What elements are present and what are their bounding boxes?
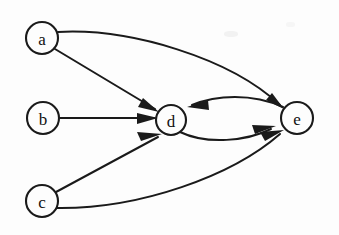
node-a[interactable]: a <box>26 22 58 54</box>
edge-a-to-d <box>55 49 159 112</box>
node-e-label: e <box>293 110 301 129</box>
node-c-label: c <box>38 193 46 212</box>
edge-d-to-e <box>180 125 276 140</box>
edge-c-to-d-path <box>56 137 158 192</box>
edge-e-to-d-arrowhead <box>187 100 209 110</box>
node-a-label: a <box>38 30 46 49</box>
node-layer: a b c d e <box>26 22 313 217</box>
edge-b-to-d-arrowhead <box>137 113 158 124</box>
directed-graph: a b c d e <box>0 0 339 235</box>
edge-c-to-e-path <box>57 134 280 208</box>
diagram-canvas: a b c d e <box>0 0 339 235</box>
edge-c-to-e <box>57 130 284 208</box>
node-d-label: d <box>167 112 176 131</box>
edge-a-to-e-path <box>58 32 280 105</box>
node-e[interactable]: e <box>281 102 313 134</box>
edge-c-to-d <box>56 132 162 192</box>
node-d[interactable]: d <box>156 105 186 135</box>
node-b[interactable]: b <box>27 102 59 134</box>
node-b-label: b <box>39 110 48 129</box>
node-c[interactable]: c <box>26 185 58 217</box>
edge-a-to-d-path <box>55 49 155 109</box>
edge-b-to-d <box>59 113 158 124</box>
